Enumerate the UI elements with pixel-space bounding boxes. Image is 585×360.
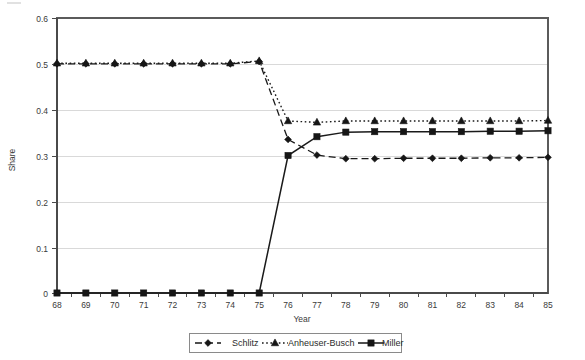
plot-area-background [57, 18, 548, 293]
x-tick-label: 79 [370, 300, 380, 310]
x-tick-label: 70 [110, 300, 120, 310]
x-tick-label: 76 [283, 300, 293, 310]
y-tick-label: 0.4 [36, 106, 48, 116]
x-tick-label: 83 [486, 300, 496, 310]
data-marker-square [400, 129, 406, 135]
data-marker-square [198, 290, 204, 296]
data-marker-square [256, 290, 262, 296]
x-tick-label: 77 [312, 300, 322, 310]
y-tick-label: 0.6 [36, 14, 48, 24]
y-axis [52, 18, 57, 293]
data-marker-square [429, 129, 435, 135]
x-tick-label: 75 [254, 300, 264, 310]
y-tick-label: 0.5 [36, 60, 48, 70]
y-tick-label: 0.3 [36, 152, 48, 162]
data-marker-square [372, 129, 378, 135]
data-marker-square [112, 290, 118, 296]
data-marker-square [227, 290, 233, 296]
y-tick-label: 0.2 [36, 198, 48, 208]
x-tick-labels: 686970717273747576777879808182838485 [52, 300, 553, 310]
legend-label: Schlitz [232, 338, 259, 348]
data-marker-square [54, 290, 60, 296]
data-marker-square [368, 340, 374, 346]
share-by-year-line-chart: 0.6 0.5 0.4 0.3 0.2 0.1 0 Share 68697071… [0, 0, 585, 360]
y-tick-label: 0 [43, 289, 48, 299]
x-tick-label: 85 [543, 300, 553, 310]
x-tick-label: 73 [197, 300, 207, 310]
data-marker-square [458, 129, 464, 135]
data-marker-square [285, 152, 291, 158]
x-tick-label: 80 [399, 300, 409, 310]
legend-label: Miller [382, 338, 404, 348]
data-marker-square [83, 290, 89, 296]
x-tick-label: 78 [341, 300, 351, 310]
x-tick-label: 82 [457, 300, 467, 310]
legend-label: Anheuser-Busch [288, 338, 355, 348]
data-marker-square [169, 290, 175, 296]
y-axis-title: Share [7, 148, 17, 171]
x-tick-label: 68 [52, 300, 62, 310]
scan-artifact [7, 2, 21, 4]
data-marker-square [141, 290, 147, 296]
y-tick-label: 0.1 [36, 244, 48, 254]
data-marker-square [516, 128, 522, 134]
x-axis-title: Year [293, 314, 310, 324]
chart-legend: SchlitzAnheuser-BuschMiller [189, 333, 404, 352]
x-tick-label: 69 [81, 300, 91, 310]
x-tick-label: 74 [226, 300, 236, 310]
x-tick-label: 84 [514, 300, 524, 310]
x-tick-label: 72 [168, 300, 178, 310]
data-marker-square [487, 128, 493, 134]
x-tick-label: 71 [139, 300, 149, 310]
x-tick-label: 81 [428, 300, 438, 310]
data-marker-square [314, 134, 320, 140]
chart-container: 0.6 0.5 0.4 0.3 0.2 0.1 0 Share 68697071… [0, 0, 585, 360]
y-tick-labels: 0.6 0.5 0.4 0.3 0.2 0.1 0 [36, 14, 48, 299]
data-marker-square [343, 129, 349, 135]
data-marker-square [545, 128, 551, 134]
